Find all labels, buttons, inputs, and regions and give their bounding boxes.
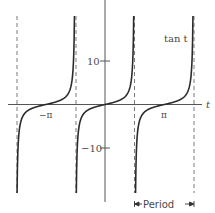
axes bbox=[8, 0, 202, 202]
period-arrow-right-head bbox=[190, 202, 195, 206]
t-axis-label: t bbox=[206, 99, 211, 110]
x-tick-label-pi: π bbox=[161, 110, 167, 120]
function-label: tan t bbox=[164, 33, 188, 44]
y-tick-label-10: 10 bbox=[87, 56, 100, 67]
period-label: Period bbox=[143, 199, 174, 210]
period-arrow-left-head bbox=[135, 202, 140, 206]
tan-chart: tan t t 10 −10 −π π Period bbox=[0, 0, 215, 213]
y-tick-label-neg10: −10 bbox=[81, 143, 102, 154]
x-tick-label-neg-pi: −π bbox=[39, 110, 53, 120]
